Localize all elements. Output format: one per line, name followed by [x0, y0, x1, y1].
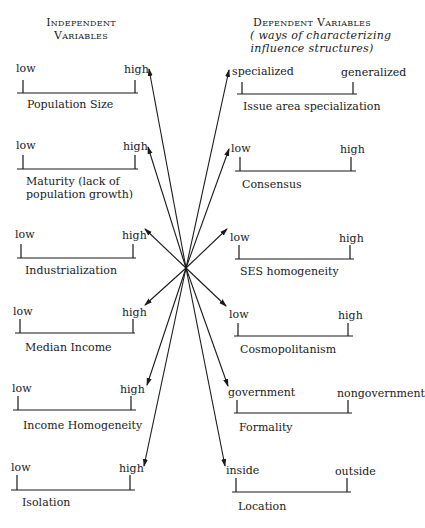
iv-high-label: high: [123, 141, 148, 153]
dv-high-label: nongovernment: [337, 388, 425, 400]
dv-name-formality: Formality: [239, 421, 293, 434]
dv-low-label: low: [230, 232, 250, 244]
dv-high-label: generalized: [341, 67, 406, 79]
iv-low-label: low: [11, 462, 31, 474]
dv-high-label: high: [340, 144, 365, 156]
arrow-formality: [186, 268, 228, 386]
arrow-location: [186, 268, 225, 466]
iv-high-label: high: [122, 307, 147, 319]
iv-high-label: high: [124, 64, 149, 76]
dv-high-label: high: [338, 310, 363, 322]
dv-low-label: low: [229, 309, 249, 321]
dv-low-label: specialized: [232, 66, 294, 78]
dv-low-label: government: [228, 387, 295, 399]
dv-low-label: inside: [226, 465, 259, 477]
iv-high-label: high: [122, 230, 147, 242]
iv-name-maturity: Maturity (lack of: [26, 175, 120, 188]
dv-high-label: high: [339, 233, 364, 245]
dv-name-ses-homogeneity: SES homogeneity: [240, 265, 339, 278]
dv-name-cosmopolitanism: Cosmopolitanism: [240, 343, 336, 356]
iv-name-maturity-line2: population growth): [26, 188, 133, 201]
dv-name-location: Location: [238, 500, 286, 513]
iv-name-isolation: Isolation: [22, 496, 70, 509]
iv-high-label: high: [120, 384, 145, 396]
iv-high-label: high: [119, 463, 144, 475]
arrow-issue-area: [186, 70, 229, 268]
iv-name-industrialization: Industrialization: [25, 264, 117, 277]
iv-name-median-income: Median Income: [25, 341, 112, 354]
dv-name-consensus: Consensus: [242, 178, 302, 191]
header-line: Independent: [36, 16, 126, 29]
header-line: Dependent Variables: [250, 16, 374, 29]
iv-name-population-size: Population Size: [27, 98, 113, 111]
dv-low-label: low: [231, 143, 251, 155]
header-subtitle: influence structures): [250, 42, 374, 55]
iv-low-label: low: [16, 140, 36, 152]
iv-low-label: low: [12, 383, 32, 395]
dv-high-label: outside: [335, 466, 376, 478]
dv-name-issue-area: Issue area specialization: [243, 100, 381, 113]
header-subtitle: ( ways of characterizing: [250, 29, 374, 42]
dependent-variables-header: Dependent Variables ( ways of characteri…: [250, 16, 374, 55]
header-line: Variables: [36, 29, 126, 42]
iv-low-label: low: [15, 229, 35, 241]
iv-low-label: low: [13, 306, 33, 318]
arrow-ses: [186, 229, 227, 268]
iv-name-income-homogeneity: Income Homogeneity: [23, 419, 142, 432]
arrow-isolation: [144, 268, 186, 466]
independent-variables-header: Independent Variables: [36, 16, 126, 42]
iv-low-label: low: [16, 63, 36, 75]
